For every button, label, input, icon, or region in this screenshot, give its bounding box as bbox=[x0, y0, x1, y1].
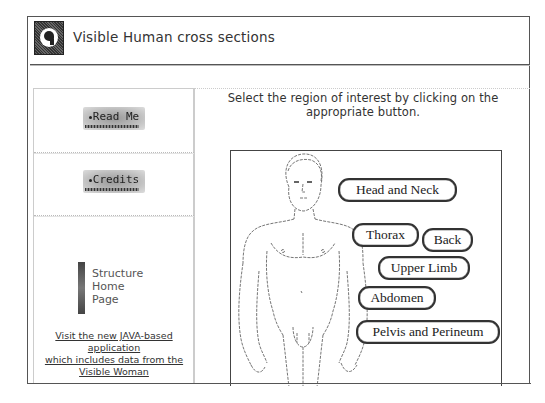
button-shadow bbox=[85, 125, 139, 128]
structure-home-page-label: Structure Home Page bbox=[92, 267, 143, 306]
page-title: Visible Human cross sections bbox=[73, 29, 275, 45]
instructions: Select the region of interest by clickin… bbox=[196, 91, 530, 119]
sidebar-divider bbox=[34, 215, 194, 217]
read-me-button[interactable]: Read Me bbox=[83, 107, 145, 130]
bullet-icon bbox=[89, 179, 92, 182]
credits-label: Credits bbox=[93, 173, 139, 186]
region-button-upper-limb[interactable]: Upper Limb bbox=[378, 256, 470, 280]
credits-button[interactable]: Credits bbox=[83, 170, 145, 193]
structure-label-line: Home bbox=[92, 280, 143, 293]
structure-label-line: Structure bbox=[92, 267, 143, 280]
java-application-link[interactable]: Visit the new JAVA-based application whi… bbox=[45, 330, 183, 377]
body-region-map: Head and Neck Thorax Back Upper Limb Abd… bbox=[230, 150, 502, 386]
instruction-line: Select the region of interest by clickin… bbox=[196, 91, 530, 105]
link-line: Visit the new JAVA-based bbox=[55, 330, 172, 341]
link-line: Visible Woman bbox=[79, 366, 149, 377]
region-button-pelvis-and-perineum[interactable]: Pelvis and Perineum bbox=[356, 320, 500, 344]
java-application-link-block: Visit the new JAVA-based application whi… bbox=[34, 330, 194, 378]
bullet-icon bbox=[89, 116, 92, 119]
visible-human-logo-icon bbox=[34, 21, 64, 55]
content-top-border bbox=[195, 88, 530, 89]
read-me-label: Read Me bbox=[93, 110, 139, 123]
column-divider bbox=[194, 88, 195, 384]
structure-bar-icon bbox=[78, 262, 85, 314]
region-button-back[interactable]: Back bbox=[422, 228, 473, 252]
region-button-thorax[interactable]: Thorax bbox=[352, 223, 419, 247]
region-button-head-and-neck[interactable]: Head and Neck bbox=[338, 178, 457, 202]
link-line: which includes data from the bbox=[45, 354, 183, 365]
header-divider bbox=[30, 64, 530, 66]
region-button-abdomen[interactable]: Abdomen bbox=[358, 286, 436, 310]
button-shadow bbox=[85, 188, 139, 191]
page-bottom-border bbox=[27, 383, 531, 384]
instruction-line: appropriate button. bbox=[196, 105, 530, 119]
sidebar-divider bbox=[34, 152, 194, 154]
link-line: application bbox=[88, 342, 140, 353]
structure-label-line: Page bbox=[92, 293, 143, 306]
structure-home-page-button[interactable]: Structure Home Page bbox=[77, 262, 155, 314]
